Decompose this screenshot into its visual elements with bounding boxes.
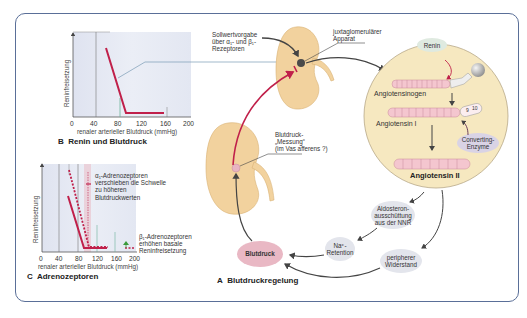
chart-c-tick-80: 80	[75, 255, 82, 262]
upper-kidney	[276, 27, 334, 109]
angiotensin-1-label: Angiotensin I	[376, 120, 416, 127]
panel-a-letter: A	[217, 276, 223, 285]
panel-b-letter: B	[58, 137, 64, 146]
messung-line-1: Blutdruck-	[275, 131, 328, 138]
beta-line-2: erhöhen basale	[139, 240, 192, 247]
alpha-line-4: Blutdruckwerten	[95, 194, 166, 201]
chart-c-tick-200: 200	[129, 255, 140, 262]
sollwert-label: Sollwertvorgabe über α₁- und β₁- Rezepto…	[212, 31, 257, 53]
panel-c-caption: C Adrenozeptoren	[27, 272, 98, 281]
beta-line-3: Reninfreisetzung	[139, 247, 192, 254]
lower-kidney	[206, 123, 274, 215]
peptide-9-label: 9	[466, 107, 469, 114]
converting-enzyme-label: Converting- Enzyme	[458, 136, 498, 150]
converting-line-2: Enzyme	[458, 143, 498, 150]
panel-c-letter: C	[27, 272, 33, 281]
na-line-2: Retention	[325, 249, 355, 256]
converting-line-1: Converting-	[458, 136, 498, 143]
juxta-line-1: juxtaglomerulärer	[333, 28, 382, 35]
chart-c-tick-40: 40	[55, 255, 62, 262]
juxta-line-2: Apparat	[333, 35, 382, 42]
sollwert-line-3: Rezeptoren	[212, 45, 257, 52]
juxta-label: juxtaglomerulärer Apparat	[333, 28, 382, 42]
panel-a-title: Blutdruckregelung	[227, 276, 298, 285]
chart-b-xlabel: renaler arterieller Blutdruck (mmHg)	[77, 128, 177, 135]
aldosteron-line-1: Aldosteron-	[371, 205, 415, 212]
chart-b-ylabel: Reninfreisetzung	[63, 60, 70, 107]
chart-b-tick-120: 120	[136, 120, 147, 127]
sollwert-line-1: Sollwertvorgabe	[212, 31, 257, 38]
chart-b-tick-80: 80	[114, 120, 121, 127]
chart-b-tick-160: 160	[160, 120, 171, 127]
alpha-line-1: α₁-Adrenozeptoren	[95, 172, 166, 179]
diagram-graphics	[0, 0, 527, 318]
angiotensin-2-chain	[394, 159, 470, 169]
aldosteron-line-3: aus der NNR	[371, 219, 415, 226]
chart-b-tick-200: 200	[183, 120, 194, 127]
chart-c-xlabel: renaler arterieller Blutdruck (mmHg)	[38, 263, 138, 270]
aldosteron-label: Aldosteron- ausschüttung aus der NNR	[371, 205, 415, 227]
panel-b-title: Renin und Blutdruck	[68, 137, 147, 146]
chart-c-tick-160: 160	[111, 255, 122, 262]
chart-b-tick-40: 40	[90, 120, 97, 127]
chart-c-tick-120: 120	[92, 255, 103, 262]
peripherer-label: peripherer Widerstand	[380, 254, 422, 268]
messung-line-2: „Messung“	[275, 138, 328, 145]
panel-b-caption: B Renin und Blutdruck	[58, 137, 147, 146]
panel-c-title: Adrenozeptoren	[37, 272, 98, 281]
chart-b-tick-0: 0	[70, 120, 74, 127]
beta-line-1: β₁-Adrenozeptoren	[139, 233, 192, 240]
alpha-annotation: α₁-Adrenozeptoren verschieben die Schwel…	[95, 172, 166, 201]
messung-line-3: (im Vas afferens ?)	[275, 145, 328, 152]
aldosteron-line-2: ausschüttung	[371, 212, 415, 219]
beta-annotation: β₁-Adrenozeptoren erhöhen basale Reninfr…	[139, 233, 192, 255]
peptide-10-label: 10	[472, 105, 478, 112]
messung-label: Blutdruck- „Messung“ (im Vas afferens ?)	[275, 131, 328, 153]
panel-a-caption: A Blutdruckregelung	[217, 276, 298, 285]
renin-label: Renin	[417, 42, 447, 49]
alpha-line-3: zu höheren	[95, 186, 166, 193]
alpha-line-2: verschieben die Schwelle	[95, 179, 166, 186]
chart-c-ylabel: Reninfreisetzung	[32, 196, 39, 243]
na-line-1: Na⁺-	[325, 242, 355, 249]
peripherer-line-1: peripherer	[380, 254, 422, 261]
peripherer-line-2: Widerstand	[380, 261, 422, 268]
angiotensinogen-label: Angiotensinogen	[374, 90, 426, 97]
angiotensin-2-label: Angiotensin II	[410, 172, 460, 179]
chart-c-tick-0: 0	[39, 255, 43, 262]
sollwert-line-2: über α₁- und β₁-	[212, 38, 257, 45]
blutdruck-label: Blutdruck	[238, 250, 282, 257]
na-retention-label: Na⁺- Retention	[325, 242, 355, 256]
